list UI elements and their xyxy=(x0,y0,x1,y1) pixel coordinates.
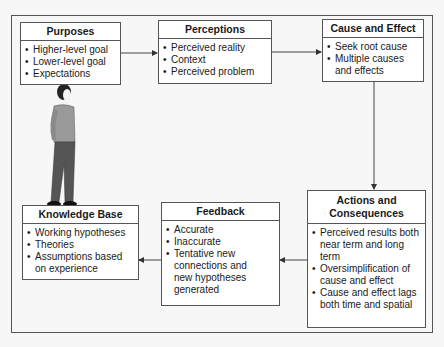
list-item: Tentative new connections and new hypoth… xyxy=(166,248,275,296)
list-item: Lower-level goal xyxy=(25,56,116,68)
list-item: Oversimplification of cause and effect xyxy=(312,263,421,287)
box-knowledge-base: Knowledge Base Working hypotheses Theori… xyxy=(22,205,139,280)
box-actions-and-consequences: Actions and Consequences Perceived resul… xyxy=(307,190,426,328)
list-item: Context xyxy=(163,54,267,66)
person-illustration xyxy=(40,84,84,208)
list-item: Theories xyxy=(27,239,134,251)
list-item: Perceived problem xyxy=(163,66,267,78)
list-item: Perceived reality xyxy=(163,42,267,54)
box-title: Purposes xyxy=(21,23,120,41)
box-cause-and-effect: Cause and Effect Seek root cause Multipl… xyxy=(322,19,424,82)
list-item: Accurate xyxy=(166,224,275,236)
box-purposes: Purposes Higher-level goal Lower-level g… xyxy=(20,22,121,85)
list-item: Higher-level goal xyxy=(25,44,116,56)
box-title: Actions and Consequences xyxy=(308,191,425,224)
box-title: Knowledge Base xyxy=(23,206,138,224)
list-item: Assumptions based on experience xyxy=(27,251,134,275)
list-item: Perceived results both near term and lon… xyxy=(312,227,421,263)
list-item: Working hypotheses xyxy=(27,227,134,239)
box-title: Perceptions xyxy=(159,21,271,39)
box-feedback: Feedback Accurate Inaccurate Tentative n… xyxy=(161,202,280,306)
list-item: Multiple causes and effects xyxy=(327,53,419,77)
list-item: Inaccurate xyxy=(166,236,275,248)
list-item: Seek root cause xyxy=(327,41,419,53)
list-item: Expectations xyxy=(25,68,116,80)
list-item: Cause and effect lags both time and spat… xyxy=(312,287,421,311)
box-title: Cause and Effect xyxy=(323,20,423,38)
box-perceptions: Perceptions Perceived reality Context Pe… xyxy=(158,20,272,84)
box-title: Feedback xyxy=(162,203,279,221)
